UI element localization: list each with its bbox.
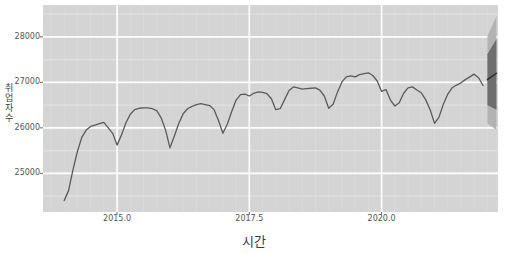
- x-axis-label: 시간: [0, 231, 507, 250]
- y-axis-label: 취업자수: [2, 83, 16, 123]
- y-tick-label: 25000: [4, 169, 40, 177]
- y-tick-label: 28000: [4, 33, 40, 41]
- chart-figure: 취업자수 시간 25000 26000 27000 28000 2015.0 2…: [0, 0, 507, 254]
- y-tick-label: 26000: [4, 124, 40, 132]
- x-tick-label: 2015.0: [87, 214, 147, 223]
- y-tick-label: 27000: [4, 78, 40, 86]
- x-tick-label: 2020.0: [352, 214, 412, 223]
- x-tick-label: 2017.5: [219, 214, 279, 223]
